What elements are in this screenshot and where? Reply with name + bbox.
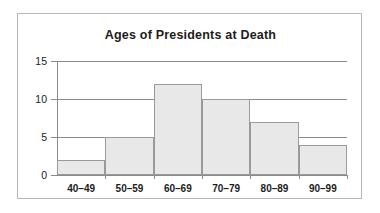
y-tick-label: 5 <box>18 132 47 143</box>
y-tick-label: 10 <box>18 94 47 105</box>
x-tick-label: 80–89 <box>250 184 298 194</box>
x-tick-mark <box>299 175 300 179</box>
x-tick-label: 60–69 <box>154 184 202 194</box>
bar <box>250 122 298 175</box>
bar <box>105 137 153 175</box>
bar <box>299 145 347 175</box>
x-tick-label: 50–59 <box>105 184 153 194</box>
x-tick-mark <box>347 175 348 179</box>
x-tick-label: 90–99 <box>299 184 347 194</box>
x-tick-mark <box>154 175 155 179</box>
bar <box>202 99 250 175</box>
y-tick-label: 15 <box>18 56 47 67</box>
x-axis-line <box>51 175 348 176</box>
y-tick-mark <box>51 175 57 176</box>
bar <box>57 160 105 175</box>
x-tick-mark <box>250 175 251 179</box>
chart-frame: Ages of Presidents at Death 051015 40–49… <box>17 13 362 199</box>
chart-title: Ages of Presidents at Death <box>18 28 363 42</box>
x-tick-mark <box>105 175 106 179</box>
y-tick-label: 0 <box>18 170 47 181</box>
x-tick-mark <box>202 175 203 179</box>
x-tick-label: 40–49 <box>57 184 105 194</box>
bar <box>154 84 202 175</box>
plot-area <box>57 61 347 175</box>
x-tick-label: 70–79 <box>202 184 250 194</box>
